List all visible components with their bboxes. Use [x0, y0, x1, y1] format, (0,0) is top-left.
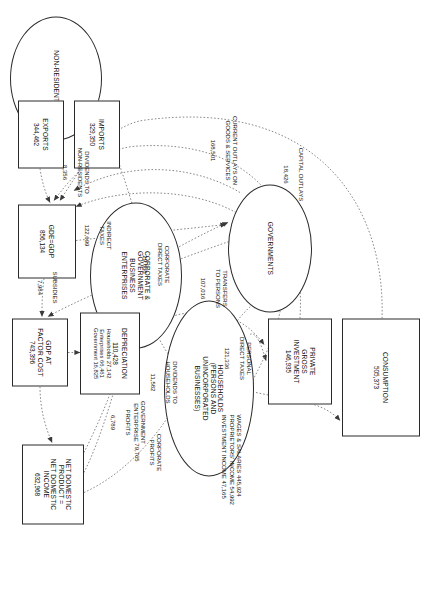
node-value: 146,935: [284, 349, 291, 372]
node-value: 743,396: [28, 340, 35, 363]
depreciation-households: Households 27,142: [105, 328, 112, 378]
node-value: 329,350: [89, 122, 96, 145]
node-consumption: CONSUMPTION 505,373: [342, 318, 420, 436]
node-gdp-at-factor-cost: GDP AT FACTOR COST 743,396: [12, 318, 68, 386]
node-value: 632,968: [34, 472, 41, 495]
node-value: 110,428: [112, 342, 119, 365]
node-title: IMPORTS: [97, 119, 105, 150]
node-title: GDE=GDP: [47, 224, 55, 257]
node-title: NON-RESIDENTS: [52, 50, 60, 107]
node-imports: IMPORTS 329,350: [74, 100, 120, 168]
node-title: PRIVATE GROSS INVESTMENT: [293, 339, 316, 383]
node-title: EXPORTS: [41, 118, 49, 150]
node-private-gross-investment: PRIVATE GROSS INVESTMENT 146,935: [268, 318, 332, 404]
node-title: CONSUMPTION: [381, 351, 389, 402]
node-value: 344,462: [33, 122, 40, 145]
node-exports: EXPORTS 344,462: [18, 100, 64, 168]
node-title: HOUSEHOLDS (PERSONS AND UNINCORPORATED B…: [194, 356, 224, 420]
node-title: GDP AT FACTOR COST: [37, 328, 52, 376]
depreciation-government: Government 16,825: [92, 327, 99, 378]
node-gde-gdp: GDE=GDP 856,134: [18, 204, 76, 278]
node-value: 856,134: [39, 229, 46, 252]
node-title: CORPORATE & GOVERNMENT BUSINESS ENTERPRI…: [121, 250, 151, 299]
node-depreciation: DEPRECIATION 110,428 Households 27,142 E…: [80, 312, 140, 394]
node-value: 505,373: [373, 365, 380, 388]
node-net-domestic-product: NET DOMESTIC PRODUCT = NET DOMESTIC INCO…: [22, 444, 84, 524]
node-households: HOUSEHOLDS (PERSONS AND UNINCORPORATED B…: [164, 300, 254, 476]
node-title: NET DOMESTIC PRODUCT = NET DOMESTIC INCO…: [42, 458, 72, 510]
node-title: GOVERNMENTS: [266, 221, 274, 274]
depreciation-enterprises: Enterprises 66,461: [99, 329, 106, 378]
node-governments: GOVERNMENTS: [228, 184, 312, 312]
node-title: DEPRECIATION: [120, 328, 128, 379]
diagram-canvas: CONSUMPTION 505,373 PRIVATE GROSS INVEST…: [0, 0, 432, 601]
